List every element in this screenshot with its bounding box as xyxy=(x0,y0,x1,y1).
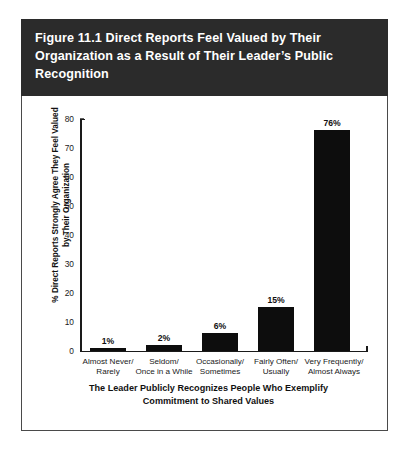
bar[interactable] xyxy=(146,345,182,351)
y-tick-label-20: 20 xyxy=(50,288,74,298)
figure-title: Figure 11.1 Direct Reports Feel Valued b… xyxy=(35,30,374,84)
bar-group-occasionally[interactable]: 6% xyxy=(202,321,238,350)
chart-panel: % Direct Reports Strongly Agree They Fee… xyxy=(21,96,388,431)
bar-value-label: 1% xyxy=(102,336,114,346)
y-tick-label-80: 80 xyxy=(50,114,74,124)
y-tick-mark-80 xyxy=(80,118,84,119)
plot-area: 80 70 60 50 40 30 20 10 0 1% 2% 6% 1 xyxy=(80,119,362,351)
y-tick-label-70: 70 xyxy=(50,143,74,153)
bar[interactable] xyxy=(202,333,238,350)
bar-value-label: 76% xyxy=(323,118,340,128)
y-tick-label-10: 10 xyxy=(50,317,74,327)
bar-group-very-frequently[interactable]: 76% xyxy=(314,118,350,350)
bar-group-almost-never[interactable]: 1% xyxy=(90,336,126,351)
x-axis-title: The Leader Publicly Recognizes People Wh… xyxy=(44,382,373,408)
y-tick-label-0: 0 xyxy=(50,346,74,356)
x-category-line-2: Almost Always xyxy=(292,367,376,378)
bar-group-fairly-often[interactable]: 15% xyxy=(258,295,294,351)
figure-container: Figure 11.1 Direct Reports Feel Valued b… xyxy=(21,19,388,428)
bar[interactable] xyxy=(314,130,350,350)
y-tick-label-50: 50 xyxy=(50,201,74,211)
x-category-label-very-frequently: Very Frequently/ Almost Always xyxy=(292,357,376,378)
bar[interactable] xyxy=(90,348,126,351)
figure-header: Figure 11.1 Direct Reports Feel Valued b… xyxy=(21,19,388,96)
bar[interactable] xyxy=(258,307,294,351)
y-tick-label-60: 60 xyxy=(50,172,74,182)
bar-value-label: 15% xyxy=(267,295,284,305)
y-tick-label-40: 40 xyxy=(50,230,74,240)
x-axis-line xyxy=(80,351,368,353)
x-axis-title-line-1: The Leader Publicly Recognizes People Wh… xyxy=(44,382,373,395)
y-axis-line xyxy=(80,119,82,351)
bar-value-label: 6% xyxy=(214,321,226,331)
bar-group-seldom[interactable]: 2% xyxy=(146,333,182,351)
bar-value-label: 2% xyxy=(158,333,170,343)
x-category-line-1: Very Frequently/ xyxy=(292,357,376,368)
x-axis-title-line-2: Commitment to Shared Values xyxy=(44,395,373,408)
x-axis-end-cap xyxy=(366,346,368,352)
y-tick-label-30: 30 xyxy=(50,259,74,269)
